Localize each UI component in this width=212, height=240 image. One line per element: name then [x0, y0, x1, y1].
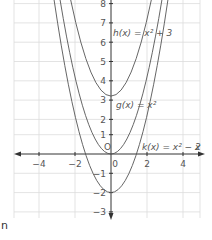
svg-text:−3: −3 — [93, 207, 106, 217]
stray-text-fragment: n — [1, 219, 8, 232]
svg-text:1: 1 — [100, 130, 106, 140]
label-k: k(x) = x² − 2 — [142, 142, 201, 152]
svg-text:8: 8 — [100, 0, 106, 9]
svg-text:4: 4 — [180, 159, 186, 169]
label-h: h(x) = x² + 3 — [113, 28, 173, 38]
svg-text:−4: −4 — [32, 159, 46, 169]
x-axis-left-arrow-icon — [14, 152, 21, 157]
x-axis-right-arrow-icon — [198, 152, 205, 157]
svg-text:6: 6 — [100, 38, 106, 48]
label-g: g(x) = x² — [116, 100, 157, 110]
y-axis-down-arrow-icon — [109, 213, 114, 220]
svg-text:3: 3 — [100, 95, 106, 105]
origin-label: O — [104, 142, 111, 152]
svg-text:2: 2 — [144, 159, 150, 169]
svg-text:7: 7 — [100, 18, 106, 28]
svg-text:5: 5 — [100, 57, 106, 67]
svg-text:0: 0 — [112, 159, 118, 169]
function-graph: −4 −2 0 2 4 8 7 6 5 4 3 2 1 −1 −2 −3 h(x… — [0, 0, 212, 240]
x-ticks: −4 −2 0 2 4 — [32, 152, 186, 169]
svg-text:−2: −2 — [68, 159, 81, 169]
svg-text:4: 4 — [100, 76, 106, 86]
svg-text:2: 2 — [100, 115, 106, 125]
x-axis-label: x — [194, 142, 201, 152]
y-ticks: 8 7 6 5 4 3 2 1 −1 −2 −3 — [93, 0, 113, 217]
